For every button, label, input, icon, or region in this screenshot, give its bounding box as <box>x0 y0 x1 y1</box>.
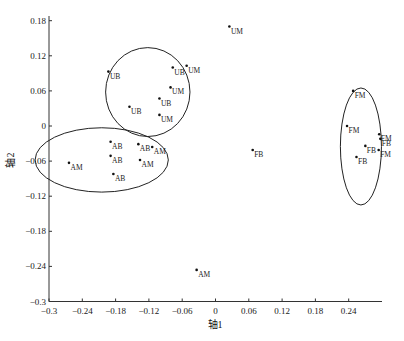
point-label: AM <box>198 270 210 279</box>
y-tick-label: 0.18 <box>30 16 46 26</box>
x-tick-label: 0.18 <box>308 306 324 316</box>
point-label: AB <box>112 142 122 151</box>
data-point: FB <box>355 156 367 166</box>
point-label: FB <box>254 150 263 159</box>
point-label: FB <box>358 157 367 166</box>
data-points: UMUBUBUMUMUBUBUMABABAMABAMAMABFBAMFMFMFM… <box>68 25 392 279</box>
data-point: UM <box>158 114 173 124</box>
point-label: FB <box>382 139 391 148</box>
data-point: UB <box>107 70 120 80</box>
x-tick-label: −0.06 <box>172 306 193 316</box>
data-point: FM <box>346 125 360 135</box>
x-tick-label: −0.24 <box>72 306 93 316</box>
y-tick-label: −0.12 <box>25 191 46 201</box>
point-label: FM <box>380 150 391 159</box>
x-tick-label: 0.06 <box>241 306 257 316</box>
data-point: FB <box>364 145 376 155</box>
x-axis-title: 轴1 <box>208 318 223 330</box>
data-point: AM <box>68 162 83 172</box>
point-label: UM <box>231 27 243 36</box>
data-point: AB <box>112 173 125 183</box>
x-tick-label: −0.18 <box>105 306 126 316</box>
point-label: UB <box>110 72 120 81</box>
y-tick-label: 0 <box>42 121 47 131</box>
data-point: UM <box>228 25 243 35</box>
y-tick-label: −0.18 <box>25 226 46 236</box>
point-label: AM <box>142 160 154 169</box>
point-label: UM <box>188 66 200 75</box>
scatter-chart: −0.3−0.24−0.18−0.12−0.0600.060.120.180.2… <box>0 0 404 341</box>
point-label: FB <box>367 146 376 155</box>
y-tick-label: −0.3 <box>30 297 47 307</box>
y-tick-label: −0.24 <box>25 261 46 271</box>
point-label: UM <box>161 115 173 124</box>
y-tick-label: 0.12 <box>30 51 46 61</box>
data-point: UB <box>171 66 184 76</box>
x-tick-label: −0.3 <box>41 306 58 316</box>
point-label: UB <box>161 99 171 108</box>
point-label: FM <box>349 126 360 135</box>
x-tick-label: 0.24 <box>341 306 357 316</box>
data-point: AM <box>139 159 154 169</box>
point-label: UB <box>131 107 141 116</box>
data-point: AB <box>109 140 122 150</box>
point-label: AB <box>140 144 150 153</box>
point-label: AB <box>112 156 122 165</box>
data-point: AB <box>137 143 150 153</box>
point-label: FM <box>355 91 366 100</box>
data-point: UM <box>169 86 184 96</box>
data-point: AM <box>195 269 210 279</box>
data-point: UB <box>158 97 171 107</box>
point-label: UM <box>172 87 184 96</box>
data-point: UB <box>128 105 141 115</box>
data-point: FM <box>377 149 391 159</box>
data-point: FB <box>251 149 263 159</box>
data-point: FM <box>352 90 366 100</box>
data-point: UM <box>185 64 200 74</box>
point-label: AM <box>70 163 82 172</box>
x-tick-label: −0.12 <box>138 306 159 316</box>
data-point: AM <box>151 146 166 156</box>
data-point: AB <box>109 155 122 165</box>
y-tick-label: 0.06 <box>30 86 46 96</box>
point-label: AM <box>154 147 166 156</box>
x-tick-label: 0 <box>213 306 218 316</box>
point-label: UB <box>174 68 184 77</box>
x-tick-label: 0.12 <box>274 306 290 316</box>
point-label: AB <box>115 174 125 183</box>
y-axis-title: 轴2 <box>4 153 16 168</box>
cluster-ellipses <box>35 48 381 205</box>
